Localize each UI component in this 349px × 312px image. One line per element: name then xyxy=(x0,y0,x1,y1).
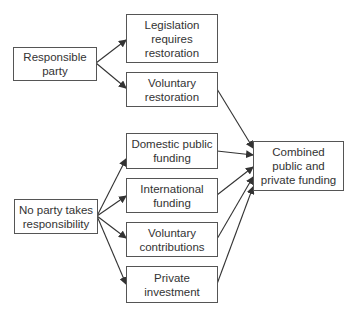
edge-responsible-to-legislation xyxy=(96,40,126,63)
node-responsible-party: Responsible party xyxy=(13,47,97,81)
node-voluntary-contributions: Voluntary contributions xyxy=(126,222,218,257)
edge-international-to-combined xyxy=(217,167,253,195)
node-domestic-public-funding: Domestic public funding xyxy=(126,133,218,169)
edge-voluntary-restoration-to-combined xyxy=(217,89,253,148)
node-legislation-requires-restoration: Legislation requires restoration xyxy=(126,14,218,63)
edge-noparty-to-international xyxy=(97,196,126,216)
edge-voluntary-contributions-to-combined xyxy=(217,177,253,239)
node-voluntary-restoration: Voluntary restoration xyxy=(126,72,218,107)
node-no-party-takes-responsibility: No party takes responsibility xyxy=(14,199,98,234)
edge-private-to-combined xyxy=(217,187,253,284)
edge-noparty-to-domestic xyxy=(97,159,126,216)
node-international-funding: International funding xyxy=(126,178,218,213)
edge-domestic-to-combined xyxy=(217,151,253,155)
funding-flow-diagram: Responsible party No party takes respons… xyxy=(0,0,349,312)
edge-responsible-to-voluntary-restoration xyxy=(96,63,126,88)
edge-noparty-to-private xyxy=(97,216,126,284)
node-private-investment: Private investment xyxy=(126,266,218,303)
node-combined-public-and-private-funding: Combined public and private funding xyxy=(253,141,344,191)
